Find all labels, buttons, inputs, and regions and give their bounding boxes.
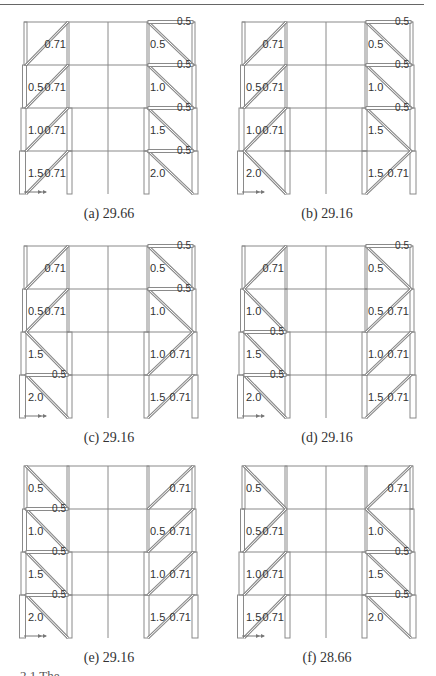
brace-label: 0.5 [246, 482, 261, 494]
brace-label: 1.0 [150, 568, 165, 580]
brace-label: 0.5 [246, 81, 261, 93]
brace-label: 0.71 [170, 391, 191, 403]
brace-label: 0.5 [368, 38, 383, 50]
brace-label: 0.71 [45, 124, 66, 136]
beam-label: 0.5 [270, 326, 284, 337]
brace-label: 0.5 [28, 305, 43, 317]
brace-label: 1.0 [368, 81, 383, 93]
brace-label: 1.5 [28, 348, 43, 360]
top-rule [0, 4, 424, 5]
frame-diagram: 0.710.50.51.00.50.710.51.51.00.710.52.01… [218, 232, 436, 432]
frame-diagram: 0.50.710.51.00.50.710.51.51.00.710.52.01… [0, 452, 218, 652]
brace-label: 0.71 [388, 167, 409, 179]
brace-label: 0.71 [170, 348, 191, 360]
frame-diagram: 0.710.50.50.50.710.51.01.00.710.51.51.50… [0, 8, 218, 208]
brace-label: 2.0 [246, 167, 261, 179]
brace-label: 0.71 [388, 348, 409, 360]
beam-label: 0.5 [177, 16, 191, 27]
brace-label: 0.71 [388, 482, 409, 494]
brace-label: 0.71 [388, 391, 409, 403]
brace-label: 0.5 [150, 525, 165, 537]
beam-label: 0.5 [52, 589, 66, 600]
beam-label: 0.5 [177, 102, 191, 113]
brace-label: 1.0 [28, 124, 43, 136]
brace-label: 0.71 [388, 305, 409, 317]
beam-label: 0.5 [395, 589, 409, 600]
panel-caption: (d) 29.16 [218, 430, 436, 446]
panel-caption: (c) 29.16 [0, 430, 218, 446]
beam-label: 0.5 [270, 369, 284, 380]
brace-label: 2.0 [368, 611, 383, 623]
brace-label: 1.0 [246, 124, 261, 136]
beam-label: 0.5 [395, 240, 409, 251]
brace-label: 0.5 [150, 262, 165, 274]
beam-label: 0.5 [177, 283, 191, 294]
brace-label: 0.71 [45, 167, 66, 179]
brace-label: 0.71 [45, 262, 66, 274]
brace-label: 0.5 [368, 262, 383, 274]
beam-label: 0.5 [177, 145, 191, 156]
brace-label: 0.5 [28, 482, 43, 494]
beam-label: 0.5 [395, 59, 409, 70]
beam-label: 0.5 [52, 369, 66, 380]
brace-label: 1.5 [368, 124, 383, 136]
brace-label: 1.0 [368, 525, 383, 537]
brace-label: 1.5 [368, 167, 383, 179]
beam-label: 0.5 [177, 240, 191, 251]
figure-caption-partial: 2.1 The ... [20, 668, 420, 676]
frame-diagram: 0.710.50.50.50.710.51.01.00.710.51.52.01… [218, 8, 436, 208]
brace-label: 1.0 [150, 81, 165, 93]
panel-c: 0.710.50.50.50.710.51.01.51.00.710.52.01… [0, 232, 218, 452]
panel-caption: (b) 29.16 [218, 206, 436, 222]
panel-caption: (f) 28.66 [218, 650, 436, 666]
brace-label: 0.5 [368, 305, 383, 317]
brace-label: 0.5 [246, 525, 261, 537]
brace-label: 1.5 [150, 391, 165, 403]
beam-label: 0.5 [52, 546, 66, 557]
frame-diagram: 0.50.710.50.711.01.00.710.51.51.50.710.5… [218, 452, 436, 652]
brace-label: 0.71 [170, 525, 191, 537]
brace-label: 0.71 [45, 81, 66, 93]
brace-label: 0.71 [45, 38, 66, 50]
panel-a: 0.710.50.50.50.710.51.01.00.710.51.51.50… [0, 8, 218, 228]
brace-label: 1.5 [368, 568, 383, 580]
brace-label: 2.0 [28, 611, 43, 623]
beam-label: 0.5 [52, 503, 66, 514]
brace-label: 0.71 [170, 568, 191, 580]
panel-b: 0.710.50.50.50.710.51.01.00.710.51.52.01… [218, 8, 436, 228]
brace-label: 2.0 [246, 391, 261, 403]
brace-label: 0.5 [28, 81, 43, 93]
brace-label: 1.5 [368, 391, 383, 403]
brace-label: 0.5 [150, 38, 165, 50]
brace-label: 1.5 [246, 611, 261, 623]
brace-label: 0.71 [170, 611, 191, 623]
panel-f: 0.50.710.50.711.01.00.710.51.51.50.710.5… [218, 452, 436, 672]
brace-label: 0.71 [45, 305, 66, 317]
beam-label: 0.5 [177, 59, 191, 70]
panel-caption: (e) 29.16 [0, 650, 218, 666]
beam-label: 0.5 [395, 102, 409, 113]
brace-label: 1.0 [246, 568, 261, 580]
brace-label: 1.5 [246, 348, 261, 360]
brace-label: 0.71 [170, 482, 191, 494]
panel-d: 0.710.50.51.00.50.710.51.51.00.710.52.01… [218, 232, 436, 452]
brace-label: 2.0 [150, 167, 165, 179]
brace-label: 1.0 [246, 305, 261, 317]
brace-label: 0.71 [263, 568, 284, 580]
brace-label: 1.0 [368, 348, 383, 360]
brace-label: 1.5 [150, 611, 165, 623]
panel-caption: (a) 29.66 [0, 206, 218, 222]
brace-label: 1.5 [28, 167, 43, 179]
brace-label: 0.71 [263, 38, 284, 50]
brace-label: 0.71 [263, 525, 284, 537]
beam-label: 0.5 [395, 16, 409, 27]
brace-label: 2.0 [28, 391, 43, 403]
brace-label: 1.0 [150, 348, 165, 360]
brace-label: 1.0 [28, 525, 43, 537]
panel-e: 0.50.710.51.00.50.710.51.51.00.710.52.01… [0, 452, 218, 672]
brace-label: 0.71 [263, 81, 284, 93]
frame-diagram: 0.710.50.50.50.710.51.01.51.00.710.52.01… [0, 232, 218, 432]
brace-label: 0.71 [263, 611, 284, 623]
brace-label: 1.5 [28, 568, 43, 580]
brace-label: 1.5 [150, 124, 165, 136]
